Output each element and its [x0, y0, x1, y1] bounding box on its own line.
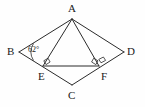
vertex-label-F: F	[101, 71, 107, 82]
vertex-label-C: C	[68, 90, 75, 101]
right-angle-mark-F-right	[99, 57, 106, 63]
angle-measure-label-B: 62°	[28, 46, 39, 54]
segment-AB	[19, 19, 72, 52]
geometry-figure: A B C D E F 62°	[0, 0, 145, 107]
right-angle-mark-F-left	[92, 58, 98, 64]
segment-CD	[72, 52, 124, 85]
vertex-label-B: B	[7, 46, 14, 57]
segment-BC	[19, 52, 72, 85]
vertex-label-E: E	[38, 71, 45, 82]
vertex-label-A: A	[68, 3, 76, 14]
segment-DA	[72, 19, 124, 52]
vertex-label-D: D	[127, 46, 135, 57]
